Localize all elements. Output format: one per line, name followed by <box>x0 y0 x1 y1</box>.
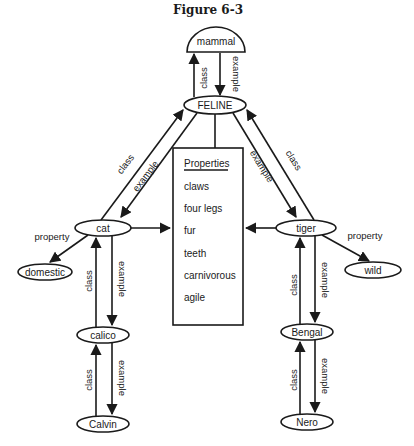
edge-cat-feline-class <box>101 110 183 220</box>
property-item: teeth <box>184 248 206 259</box>
node-calico: calico <box>90 330 116 341</box>
label-feline-mammal-class: class <box>198 67 209 89</box>
property-item: four legs <box>184 203 222 214</box>
node-feline: FELINE <box>197 100 232 111</box>
node-bengal: Bengal <box>291 327 322 338</box>
figure-title: Figure 6-3 <box>173 3 243 17</box>
label-mammal-feline-example: example <box>231 56 242 92</box>
property-item: carnivorous <box>184 270 236 281</box>
properties-heading: Properties <box>184 158 230 169</box>
label-bengal-tiger-class: class <box>288 274 299 296</box>
label-calico-cat-class: class <box>83 270 94 292</box>
node-nero: Nero <box>296 417 318 428</box>
node-mammal: mammal <box>197 36 235 47</box>
label-nero-bengal-class: class <box>288 369 299 391</box>
property-item: claws <box>184 181 209 192</box>
property-item: agile <box>184 292 206 303</box>
semantic-network-diagram: Figure 6-3 class example class example c… <box>0 0 414 446</box>
label-calico-calvin-example: example <box>117 360 128 396</box>
label-cat-domestic-property: property <box>35 231 70 242</box>
node-domestic: domestic <box>25 267 65 278</box>
property-item: fur <box>184 225 196 236</box>
label-bengal-nero-example: example <box>320 358 331 394</box>
node-wild: wild <box>363 265 381 276</box>
node-cat: cat <box>96 223 110 234</box>
label-tiger-wild-property: property <box>348 230 383 241</box>
node-calvin: Calvin <box>89 419 117 430</box>
label-feline-tiger-example: example <box>248 148 276 184</box>
node-tiger: tiger <box>296 223 316 234</box>
label-cat-feline-class: class <box>114 152 136 176</box>
label-calvin-calico-class: class <box>83 369 94 391</box>
label-tiger-feline-class: class <box>284 148 305 172</box>
label-cat-calico-example: example <box>117 261 128 297</box>
label-tiger-bengal-example: example <box>320 262 331 298</box>
